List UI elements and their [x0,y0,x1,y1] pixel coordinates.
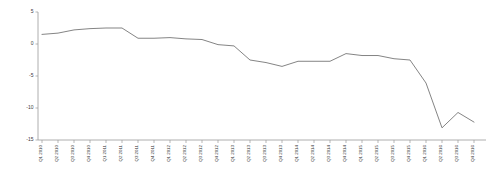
plot-area [42,28,474,128]
x-tick-label: Q2 2012 [182,144,187,161]
x-tick-label: Q1 2011 [102,144,107,161]
x-tick-label: Q2 2013 [246,144,251,161]
x-tick-label: Q1 2012 [166,144,171,161]
x-tick-label: Q4 2015 [406,144,411,161]
x-tick-label: Q1 2014 [294,144,299,161]
x-tick-label: Q4 2010 [86,144,91,161]
x-tick-label: Q1 2016 [422,144,427,161]
x-tick-label: Q2 2015 [374,144,379,161]
y-tick-label: -10 [26,104,33,110]
x-tick-label: Q3 2011 [134,144,139,161]
x-tick-label: Q4 2013 [278,144,283,161]
x-tick-label: Q3 2010 [70,144,75,161]
x-tick-label: Q3 2014 [326,144,331,161]
x-tick-label: Q1 2015 [358,144,363,161]
x-tick-label: Q3 2012 [198,144,203,161]
x-tick-label: Q2 2016 [438,144,443,161]
chart-canvas: 50-5-10-15 Q1 2010Q2 2010Q3 2010Q4 2010Q… [0,0,500,176]
y-axis: 50-5-10-15 [26,8,38,142]
line-chart: 50-5-10-15 Q1 2010Q2 2010Q3 2010Q4 2010Q… [0,0,500,176]
x-tick-label: Q1 2010 [38,144,43,161]
x-tick-label: Q2 2014 [310,144,315,161]
y-tick-label: 5 [31,8,34,14]
x-tick-label: Q2 2011 [118,144,123,161]
x-tick-label: Q4 2011 [150,144,155,161]
x-tick-label: Q3 2015 [390,144,395,161]
data-series-line [42,28,474,128]
x-tick-label: Q4 2016 [470,144,475,161]
x-tick-label: Q3 2016 [454,144,459,161]
y-tick-label: 0 [31,40,34,46]
x-axis: Q1 2010Q2 2010Q3 2010Q4 2010Q1 2011Q2 20… [38,140,486,162]
x-tick-label: Q3 2013 [262,144,267,161]
y-tick-label: -15 [26,136,33,142]
x-tick-label: Q1 2013 [230,144,235,161]
y-tick-label: -5 [29,72,34,78]
x-tick-label: Q4 2012 [214,144,219,161]
x-tick-label: Q4 2014 [342,144,347,161]
x-tick-label: Q2 2010 [54,144,59,161]
